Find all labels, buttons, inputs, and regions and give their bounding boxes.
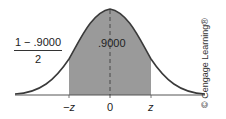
- copyright-notice: © Cengage Learning®: [200, 18, 210, 108]
- tick-label-zero: 0: [107, 102, 113, 113]
- tail-fraction-numerator: 1 − .9000: [14, 36, 62, 51]
- central-area-label: .9000: [98, 38, 126, 49]
- tail-area-fraction: 1 − .9000 2: [14, 36, 62, 65]
- tick-label-pos-z: z: [148, 102, 154, 113]
- tick-label-neg-z: −z: [63, 102, 75, 113]
- tail-fraction-denominator: 2: [14, 51, 62, 65]
